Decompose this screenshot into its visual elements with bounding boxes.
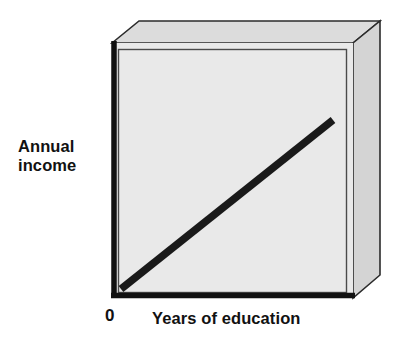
box-right-face: [353, 21, 380, 298]
box-top-face: [112, 21, 380, 43]
origin-tick-label: 0: [105, 306, 114, 326]
plot-area: [112, 43, 353, 298]
figure-container: Annual income Years of education 0: [0, 0, 394, 347]
x-axis-label: Years of education: [152, 309, 301, 328]
y-axis-label: Annual income: [18, 137, 76, 176]
